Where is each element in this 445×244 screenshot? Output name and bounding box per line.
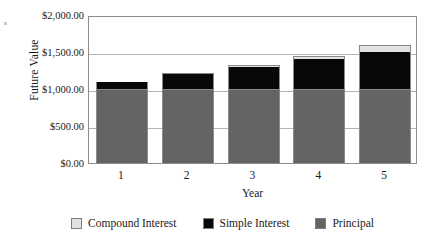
bar-segment-compound-interest[interactable] [293, 56, 345, 59]
x-axis-tick-label: 5 [351, 168, 417, 182]
y-axis-tick-label: $1,500.00 [24, 48, 84, 58]
x-axis-tick-label: 4 [285, 168, 351, 182]
x-axis-tick-label: 2 [154, 168, 220, 182]
bar-segment-compound-interest[interactable] [228, 65, 280, 67]
legend-swatch-icon [71, 218, 82, 229]
bar-segment-simple-interest[interactable] [293, 59, 345, 89]
y-axis-tick-label: $1,000.00 [24, 85, 84, 95]
bar-group[interactable] [96, 82, 148, 163]
legend-label: Simple Interest [220, 217, 290, 230]
bar-segment-simple-interest[interactable] [359, 52, 411, 89]
x-axis-tick-labels: 12345 [88, 168, 417, 186]
y-axis-tick-label: $2,000.00 [24, 11, 84, 21]
legend-label: Compound Interest [88, 217, 176, 230]
future-value-stacked-bar-chart: Future Value $0.00$500.00$1,000.00$1,500… [0, 0, 445, 244]
chart-legend: Compound InterestSimple InterestPrincipa… [0, 210, 445, 236]
x-axis-title: Year [88, 186, 417, 200]
bar-group[interactable] [162, 73, 214, 163]
x-axis-tick-label: 3 [220, 168, 286, 182]
legend-item[interactable]: Compound Interest [71, 217, 176, 230]
bar-segment-simple-interest[interactable] [96, 82, 148, 89]
bar-segment-principal[interactable] [359, 89, 411, 163]
y-axis-tick-label: $0.00 [24, 159, 84, 169]
plot-area [88, 16, 417, 164]
bar-segment-principal[interactable] [293, 89, 345, 163]
bar-group[interactable] [359, 45, 411, 163]
bar-segment-simple-interest[interactable] [162, 74, 214, 89]
bar-segment-simple-interest[interactable] [228, 67, 280, 89]
y-axis-tick-label: $500.00 [24, 122, 84, 132]
bar-group[interactable] [293, 56, 345, 163]
decorative-speck [4, 22, 7, 25]
bar-series-container [89, 17, 416, 163]
legend-swatch-icon [315, 218, 326, 229]
legend-label: Principal [332, 217, 374, 230]
bar-segment-compound-interest[interactable] [359, 45, 411, 52]
bar-group[interactable] [228, 65, 280, 163]
bar-segment-principal[interactable] [228, 89, 280, 163]
legend-item[interactable]: Principal [315, 217, 374, 230]
y-axis-tick-labels: $0.00$500.00$1,000.00$1,500.00$2,000.00 [34, 0, 88, 180]
bar-segment-principal[interactable] [96, 89, 148, 163]
bar-segment-principal[interactable] [162, 89, 214, 163]
bar-segment-compound-interest[interactable] [162, 73, 214, 74]
legend-item[interactable]: Simple Interest [203, 217, 290, 230]
x-axis-tick-label: 1 [88, 168, 154, 182]
legend-swatch-icon [203, 218, 214, 229]
